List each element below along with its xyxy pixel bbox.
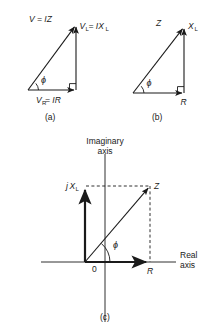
panel-c-caption: (c): [100, 312, 110, 322]
panel-a-base-label: V R = IR: [36, 95, 61, 106]
svg-text:= IR: = IR: [45, 95, 61, 105]
svg-text:L: L: [76, 186, 80, 192]
phasor-impedance-figure: V = IZ V L = IX L V R = IR ϕ (a) Z: [0, 0, 212, 334]
panel-c-angle-label: ϕ: [113, 240, 118, 250]
panel-c-reactance-label: j X L: [65, 181, 80, 192]
panel-a-right-angle-marker: [70, 84, 77, 90]
panel-c-real-axis-label-line2: axis: [180, 260, 195, 270]
panel-c-imaginary-axis-label-line2: axis: [97, 146, 112, 156]
svg-text:L: L: [195, 26, 199, 32]
panel-a-angle-label: ϕ: [41, 75, 46, 85]
panel-b-base-label: R: [181, 97, 187, 107]
panel-c-imaginary-axis-label-line1: Imaginary: [86, 136, 124, 146]
panel-b: Z X L R ϕ (b): [133, 18, 199, 122]
panel-c-impedance-label: Z: [153, 181, 160, 191]
panel-a-hypotenuse-vector: [28, 27, 75, 90]
svg-text:L: L: [106, 26, 110, 32]
panel-a-caption: (a): [45, 112, 56, 122]
panel-c-impedance-vector: [85, 188, 148, 262]
panel-a-vertical-label: V L = IX L: [80, 21, 110, 32]
svg-text:X: X: [69, 181, 76, 191]
svg-text:= IX: = IX: [89, 21, 105, 31]
panel-c-origin-label: 0: [92, 264, 97, 274]
panel-b-angle-arc: [141, 86, 144, 93]
panel-b-angle-label: ϕ: [147, 78, 152, 88]
panel-b-hypotenuse-label: Z: [155, 18, 162, 28]
svg-text:X: X: [187, 21, 194, 31]
panel-c-angle-arc: [102, 244, 111, 262]
panel-c-real-axis-label-line1: Real: [180, 250, 198, 260]
panel-b-hypotenuse-vector: [133, 29, 183, 93]
panel-c-resistance-label: R: [147, 266, 153, 276]
svg-text:j: j: [65, 181, 69, 191]
panel-b-right-angle-marker: [178, 87, 185, 93]
panel-a-hypotenuse-label: V = IZ: [29, 14, 53, 24]
panel-b-caption: (b): [152, 112, 163, 122]
figure-root: V = IZ V L = IX L V R = IR ϕ (a) Z: [0, 0, 212, 334]
panel-b-vertical-label: X L: [187, 21, 199, 32]
panel-a: V = IZ V L = IX L V R = IR ϕ (a): [28, 14, 110, 123]
panel-c: Imaginary axis Real axis j X L R Z 0 ϕ (…: [41, 136, 198, 322]
panel-a-angle-arc: [36, 83, 39, 90]
